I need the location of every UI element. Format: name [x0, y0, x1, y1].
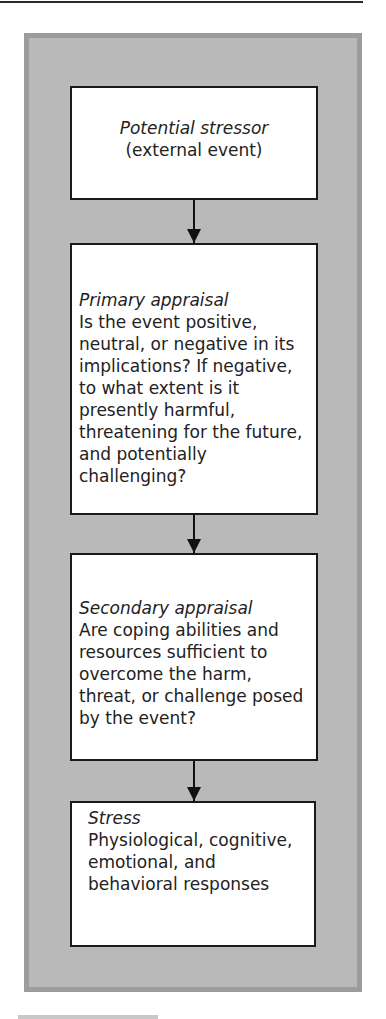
node-primary-appraisal: Primary appraisal Is the event positive,…: [70, 243, 318, 515]
node-potential-stressor: Potential stressor (external event): [70, 86, 318, 200]
node-stress: Stress Physiological, cognitive, emotion…: [70, 801, 316, 947]
node-title: Secondary appraisal: [79, 597, 310, 619]
node-body: (external event): [72, 139, 316, 161]
node-body: Is the event positive, neutral, or negat…: [79, 311, 310, 487]
node-body: Are coping abilities and resources suffi…: [79, 619, 310, 729]
node-body: Physiological, cognitive, emotional, and…: [88, 829, 308, 895]
arrow-down-icon: [193, 761, 195, 801]
caption-cutoff: [18, 1015, 158, 1019]
arrow-down-icon: [193, 200, 195, 243]
node-title: Primary appraisal: [79, 289, 310, 311]
node-secondary-appraisal: Secondary appraisal Are coping abilities…: [70, 553, 318, 761]
node-title: Stress: [88, 807, 308, 829]
arrow-down-icon: [193, 515, 195, 553]
node-title: Potential stressor: [72, 117, 316, 139]
top-rule-divider: [0, 1, 363, 3]
